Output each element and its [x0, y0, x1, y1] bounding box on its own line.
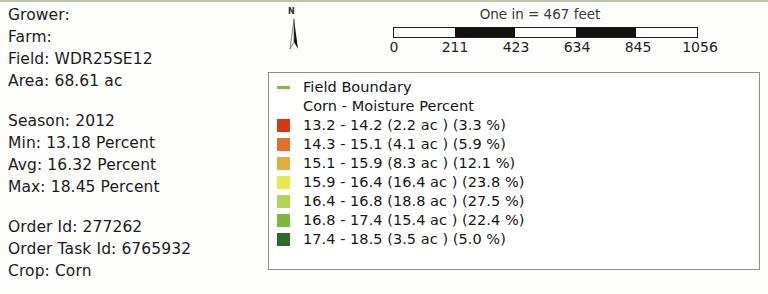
legend-swatch-cell: [277, 211, 303, 230]
legend-swatch-cell: [277, 192, 303, 211]
legend-label-class-1: 13.2 - 14.2 (2.2 ac ) (3.3 %): [303, 116, 506, 135]
info-line-crop: Crop: Corn: [8, 260, 258, 282]
scale-tick-1: 211: [425, 39, 485, 55]
map-legend: Field Boundary Corn - Moisture Percent 1…: [268, 72, 760, 270]
legend-row-class-2: 14.3 - 15.1 (4.1 ac ) (5.9 %): [269, 135, 759, 154]
legend-row-field-boundary: Field Boundary: [269, 78, 759, 97]
info-spacer-1: [8, 92, 258, 110]
legend-color-swatch: [277, 233, 290, 246]
legend-swatch-cell: [277, 135, 303, 154]
legend-label-class-7: 17.4 - 18.5 (3.5 ac ) (5.0 %): [303, 230, 506, 249]
legend-swatch-cell: [277, 154, 303, 173]
legend-color-swatch: [277, 119, 290, 132]
legend-row-class-3: 15.1 - 15.9 (8.3 ac ) (12.1 %): [269, 154, 759, 173]
scale-tick-0: 0: [364, 39, 424, 55]
scale-segment-3: [515, 28, 576, 37]
north-arrow-glyph: [280, 18, 310, 52]
north-arrow-icon: N: [278, 8, 312, 56]
legend-label-class-5: 16.4 - 16.8 (18.8 ac ) (27.5 %): [303, 192, 524, 211]
info-line-farm: Farm:: [8, 26, 258, 48]
legend-color-swatch: [277, 138, 290, 151]
legend-label-field-boundary: Field Boundary: [303, 78, 412, 97]
legend-swatch-cell: [277, 116, 303, 135]
info-spacer-2: [8, 198, 258, 216]
legend-row-class-6: 16.8 - 17.4 (15.4 ac ) (22.4 %): [269, 211, 759, 230]
top-divider: [0, 0, 768, 2]
info-line-area: Area: 68.61 ac: [8, 70, 258, 92]
scale-tick-5: 1056: [670, 39, 730, 55]
legend-label-class-4: 15.9 - 16.4 (16.4 ac ) (23.8 %): [303, 173, 524, 192]
scale-tick-2: 423: [486, 39, 546, 55]
info-line-order-task-id: Order Task Id: 6765932: [8, 238, 258, 260]
scale-segment-2: [455, 28, 516, 37]
info-line-field: Field: WDR25SE12: [8, 48, 258, 70]
legend-title: Corn - Moisture Percent: [303, 97, 474, 116]
legend-swatch-cell: [277, 230, 303, 249]
legend-label-class-6: 16.8 - 17.4 (15.4 ac ) (22.4 %): [303, 211, 524, 230]
legend-color-swatch: [277, 157, 290, 170]
info-line-grower: Grower:: [8, 4, 258, 26]
scale-segment-4: [576, 28, 637, 37]
legend-color-swatch: [277, 195, 290, 208]
legend-row-title: Corn - Moisture Percent: [269, 97, 759, 116]
scale-bar: [393, 27, 698, 38]
legend-color-swatch: [277, 214, 290, 227]
legend-color-swatch: [277, 176, 290, 189]
legend-swatch-cell: [277, 173, 303, 192]
scale-caption: One in = 467 feet: [380, 6, 700, 22]
legend-label-class-3: 15.1 - 15.9 (8.3 ac ) (12.1 %): [303, 154, 515, 173]
scale-bar-group: One in = 467 feet 0 211 423 634 845 1056: [380, 6, 720, 62]
map-legend-page: Grower: Farm: Field: WDR25SE12 Area: 68.…: [0, 0, 768, 294]
info-line-order-id: Order Id: 277262: [8, 216, 258, 238]
info-line-season: Season: 2012: [8, 110, 258, 132]
field-info-panel: Grower: Farm: Field: WDR25SE12 Area: 68.…: [8, 4, 258, 282]
legend-label-class-2: 14.3 - 15.1 (4.1 ac ) (5.9 %): [303, 135, 506, 154]
info-line-max: Max: 18.45 Percent: [8, 176, 258, 198]
scale-segment-1: [394, 28, 455, 37]
north-arrow-label: N: [288, 8, 295, 16]
legend-row-class-5: 16.4 - 16.8 (18.8 ac ) (27.5 %): [269, 192, 759, 211]
legend-row-class-1: 13.2 - 14.2 (2.2 ac ) (3.3 %): [269, 116, 759, 135]
scale-tick-4: 845: [608, 39, 668, 55]
legend-row-class-7: 17.4 - 18.5 (3.5 ac ) (5.0 %): [269, 230, 759, 249]
legend-swatch-cell: [277, 78, 303, 97]
scale-segment-5: [636, 28, 697, 37]
info-line-avg: Avg: 16.32 Percent: [8, 154, 258, 176]
legend-row-class-4: 15.9 - 16.4 (16.4 ac ) (23.8 %): [269, 173, 759, 192]
scale-tick-labels: 0 211 423 634 845 1056: [380, 39, 712, 59]
field-boundary-line-icon: [277, 86, 290, 89]
scale-tick-3: 634: [547, 39, 607, 55]
info-line-min: Min: 13.18 Percent: [8, 132, 258, 154]
